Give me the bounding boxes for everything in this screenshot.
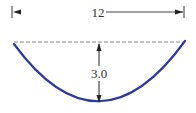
width-label: 12 [92, 5, 105, 20]
arrow-up-icon [97, 43, 102, 51]
arrow-left-icon [13, 10, 21, 15]
parabola-diagram: 12 3.0 [0, 0, 196, 113]
depth-dimension: 3.0 [91, 43, 107, 103]
arrow-right-icon [175, 10, 183, 15]
depth-label: 3.0 [91, 66, 107, 81]
width-dimension: 12 [12, 5, 184, 20]
